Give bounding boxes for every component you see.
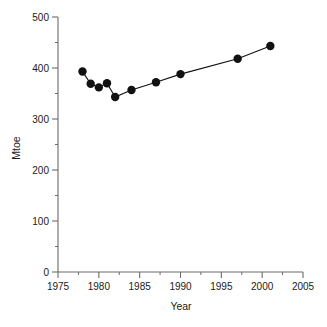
data-point-marker: [152, 78, 160, 86]
y-axis: 0100200300400500: [32, 12, 58, 278]
chart-container: 0100200300400500 19751980198519901995200…: [0, 0, 327, 327]
x-axis-tick-label: 1995: [210, 281, 233, 292]
x-axis-title: Year: [170, 300, 192, 312]
y-axis-tick-label: 100: [32, 216, 49, 227]
data-point-marker: [78, 67, 86, 75]
y-axis-tick-label: 300: [32, 114, 49, 125]
chart-plot-svg: 0100200300400500 19751980198519901995200…: [0, 0, 327, 327]
data-point-marker: [86, 80, 94, 88]
x-axis-tick-label: 2000: [251, 281, 274, 292]
x-axis: 1975198019851990199520002005: [47, 272, 315, 292]
data-point-marker: [176, 70, 184, 78]
y-axis-tick-label: 500: [32, 12, 49, 23]
y-axis-tick-label: 200: [32, 165, 49, 176]
x-axis-tick-label: 1980: [88, 281, 111, 292]
data-series: [78, 42, 274, 101]
x-axis-tick-label: 1990: [169, 281, 192, 292]
data-point-marker: [95, 83, 103, 91]
y-axis-tick-label: 0: [43, 267, 49, 278]
y-axis-title: Mtoe: [10, 136, 22, 160]
data-point-marker: [233, 55, 241, 63]
data-point-marker: [266, 42, 274, 50]
data-point-marker: [103, 79, 111, 87]
x-axis-tick-label: 2005: [292, 281, 315, 292]
y-axis-tick-label: 400: [32, 63, 49, 74]
data-point-marker: [127, 86, 135, 94]
x-axis-tick-label: 1975: [47, 281, 70, 292]
x-axis-tick-label: 1985: [129, 281, 152, 292]
series-line: [83, 46, 271, 97]
data-point-marker: [111, 93, 119, 101]
